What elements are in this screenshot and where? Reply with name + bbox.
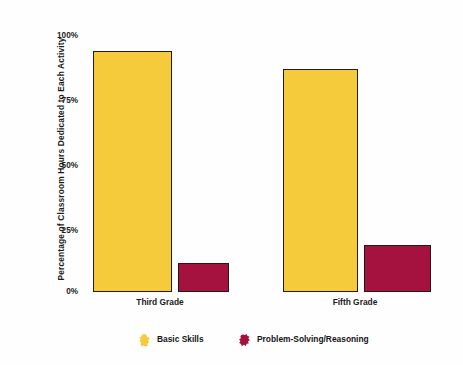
bar-third-grade-basic-skills [93,51,172,292]
x-axis-category-label-third-grade: Third Grade [105,297,215,307]
plot-area [84,30,452,292]
y-axis-tick-label: 0% [32,287,78,296]
x-axis-category-label-fifth-grade: Fifth Grade [300,297,410,307]
legend-item-basic-skills: Basic Skills [139,330,204,348]
legend-label-basic-skills: Basic Skills [157,334,204,344]
bar-fifth-grade-basic-skills [283,69,358,292]
y-axis-tick-label: 50% [32,161,78,170]
legend-label-problem-solving: Problem-Solving/Reasoning [257,334,369,344]
legend-item-problem-solving: Problem-Solving/Reasoning [239,330,369,348]
y-axis-tick-label: 75% [32,96,78,105]
legend-swatch-problem-solving-icon [239,333,250,346]
y-axis-tick-labels: 100% 75% 50% 25% 0% [18,0,78,365]
chart-legend: Basic Skills Problem-Solving/Reasoning [0,330,463,354]
y-axis-tick-label: 100% [32,31,78,40]
y-axis-tick-label: 25% [32,226,78,235]
bar-chart: Percentage of Classroom Hours Dedicated … [0,0,463,365]
bar-fifth-grade-problem-solving [364,245,431,292]
bar-third-grade-problem-solving [178,263,229,292]
legend-swatch-basic-skills-icon [139,333,150,346]
